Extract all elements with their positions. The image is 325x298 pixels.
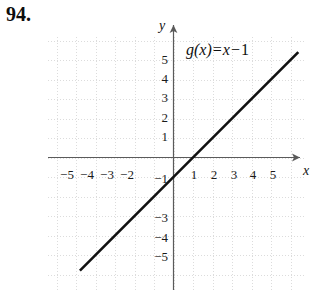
y-tick-label-5: 5 — [152, 53, 168, 66]
x-tick-label-neg-2: −2 — [118, 168, 136, 181]
y-tick-label-neg-1: −1 — [148, 172, 168, 185]
x-tick-label-1: 1 — [186, 168, 202, 181]
figure-container: 94. y x 5 4 3 2 1 −1 −3 −4 −5 −5 −4 −3 −… — [0, 0, 325, 298]
x-tick-label-neg-4: −4 — [78, 168, 96, 181]
x-tick-label-4: 4 — [245, 168, 261, 181]
equation-function-name: g — [186, 41, 194, 58]
y-tick-label-1: 1 — [152, 130, 168, 143]
y-tick-label-4: 4 — [152, 72, 168, 85]
y-axis-label: y — [159, 19, 165, 33]
x-tick-label-2: 2 — [206, 168, 222, 181]
y-tick-label-2: 2 — [152, 111, 168, 124]
function-line-g — [80, 52, 298, 270]
y-tick-label-neg-4: −4 — [148, 231, 168, 244]
equation-variable: x — [223, 41, 230, 58]
equation-equals: = — [212, 41, 223, 58]
y-tick-label-neg-3: −3 — [148, 211, 168, 224]
y-tick-label-neg-5: −5 — [148, 250, 168, 263]
x-tick-label-5: 5 — [265, 168, 281, 181]
x-tick-label-3: 3 — [226, 168, 242, 181]
y-tick-label-3: 3 — [152, 91, 168, 104]
equation-argument: (x) — [194, 41, 212, 58]
function-equation-label: g(x)=x−1 — [186, 41, 249, 59]
equation-minus-operator: − — [230, 41, 241, 58]
x-tick-label-neg-5: −5 — [58, 168, 76, 181]
x-tick-label-neg-3: −3 — [98, 168, 116, 181]
equation-constant: 1 — [241, 41, 249, 58]
x-axis-label: x — [303, 164, 309, 178]
